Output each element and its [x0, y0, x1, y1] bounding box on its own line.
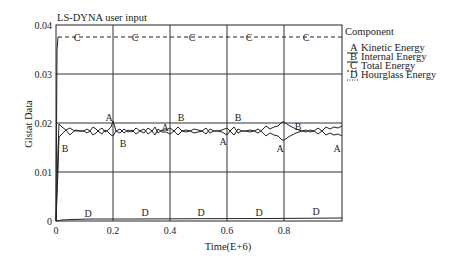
legend-item-hourglass: D Hourglass Energy: [347, 69, 437, 80]
legend-label: Hourglass Energy: [361, 69, 437, 80]
curve-label-c: C: [246, 32, 253, 43]
curve-label-d: D: [84, 208, 91, 219]
curve-labels: C C C C C A B B A B A B A B A D D D D D: [62, 32, 342, 219]
x-tick: 0.8: [278, 225, 291, 236]
curve-label-a: A: [276, 143, 284, 154]
curve-label-d: D: [141, 207, 148, 218]
y-tick: 0: [47, 216, 52, 227]
series-kinetic-energy: [56, 121, 342, 221]
y-axis: 0.04 0.03 0.02 0.01 0: [35, 20, 53, 227]
x-axis: 0 0.2 0.4 0.6 0.8: [54, 225, 291, 236]
curve-label-c: C: [74, 32, 81, 43]
curve-label-a: A: [219, 136, 227, 147]
series-kinetic-internal: [56, 121, 342, 221]
x-tick: 0.6: [221, 225, 234, 236]
x-tick: 0.2: [107, 225, 120, 236]
chart: LS-DYNA user input 0.04 0.03 0.02 0.01 0…: [0, 0, 457, 263]
chart-title: LS-DYNA user input: [57, 12, 147, 23]
legend: Component A Kinetic Energy B Internal En…: [345, 26, 437, 80]
curve-label-c: C: [189, 32, 196, 43]
x-axis-label: Time(E+6): [205, 241, 252, 253]
y-tick: 0.04: [35, 20, 53, 31]
y-axis-label: Glstat Data: [23, 100, 34, 148]
curve-label-b: B: [62, 143, 69, 154]
curve-label-b: B: [235, 112, 242, 123]
curve-label-d: D: [312, 206, 319, 217]
x-tick: 0.4: [164, 225, 177, 236]
curve-label-b: B: [178, 112, 185, 123]
curve-label-a: A: [333, 143, 341, 154]
curve-label-a: A: [105, 112, 113, 123]
curve-label-c: C: [132, 32, 139, 43]
y-tick: 0.01: [35, 167, 53, 178]
curve-label-a: A: [161, 122, 169, 133]
curve-label-b: B: [295, 121, 302, 132]
x-tick: 0: [54, 225, 59, 236]
curve-label-b: B: [120, 138, 127, 149]
legend-marker: D: [350, 69, 358, 80]
curve-label-d: D: [255, 207, 262, 218]
y-tick: 0.03: [35, 69, 53, 80]
curve-label-d: D: [197, 207, 204, 218]
curve-label-c: C: [303, 32, 310, 43]
y-tick: 0.02: [35, 118, 53, 129]
legend-title: Component: [345, 26, 394, 37]
